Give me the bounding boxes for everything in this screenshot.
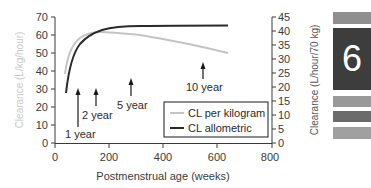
x-tick: 0 <box>52 151 58 163</box>
y-tick: 0 <box>42 137 48 149</box>
y-right-tick: 35 <box>278 39 290 51</box>
annotation-5-year: 5 year <box>117 99 148 111</box>
x-tick: 800 <box>261 151 279 163</box>
y-tick: 70 <box>36 11 48 23</box>
y-tick: 10 <box>36 119 48 131</box>
clearance-chart: 0 10 20 30 40 50 60 70 0 5 10 15 20 25 3… <box>0 0 371 188</box>
legend-label-allometric: CL allometric <box>188 122 252 134</box>
y-right-tick: 25 <box>278 67 290 79</box>
chapter-tab-bar-3 <box>333 111 371 122</box>
y-right-tick: 40 <box>278 25 290 37</box>
right-tick-labels: 0 5 10 15 20 25 30 35 40 45 <box>278 11 290 149</box>
x-tick-labels: 0 200 400 600 800 <box>52 151 279 163</box>
y-tick: 40 <box>36 65 48 77</box>
legend-label-per-kg: CL per kilogram <box>188 107 265 119</box>
y-tick: 50 <box>36 47 48 59</box>
y-tick: 30 <box>36 83 48 95</box>
chapter-tab-bar-4 <box>333 127 371 139</box>
y-right-tick: 20 <box>278 81 290 93</box>
annotation-10-year: 10 year <box>186 81 223 93</box>
legend: CL per kilogram CL allometric <box>164 102 268 137</box>
annotation-2-year: 2 year <box>82 109 113 121</box>
right-axis-title: Clearance (L/hour/70 kg) <box>309 25 320 136</box>
y-right-tick: 45 <box>278 11 290 23</box>
y-right-tick: 30 <box>278 53 290 65</box>
y-tick: 60 <box>36 29 48 41</box>
x-tick: 600 <box>208 151 226 163</box>
x-axis-title: Postmenstrual age (weeks) <box>96 170 229 182</box>
y-right-tick: 0 <box>278 137 284 149</box>
chapter-tab-bar-1 <box>333 12 371 24</box>
left-tick-labels: 0 10 20 30 40 50 60 70 <box>36 11 48 149</box>
x-tick: 200 <box>100 151 118 163</box>
y-right-tick: 15 <box>278 95 290 107</box>
annotation-1-year: 1 year <box>65 128 96 140</box>
x-tick: 400 <box>154 151 172 163</box>
y-right-tick: 5 <box>278 123 284 135</box>
left-axis-title: Clearance (L/kg/hour) <box>14 32 25 129</box>
chapter-tab-bar-2 <box>333 96 371 107</box>
y-right-tick: 10 <box>278 109 290 121</box>
chapter-number: 6 <box>333 28 371 90</box>
y-tick: 20 <box>36 101 48 113</box>
